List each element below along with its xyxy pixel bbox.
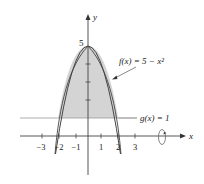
x-axis-arrow-icon (180, 134, 186, 139)
y-tick-label-5: 5 (79, 38, 84, 48)
tick-label: 3 (133, 142, 137, 152)
y-axis-label: y (92, 12, 97, 22)
tick-label: −3 (36, 142, 45, 152)
tick-label: 2 (116, 142, 120, 152)
tick-label: −2 (54, 142, 63, 152)
y-axis-arrow-icon (86, 14, 91, 20)
chart: x y −3 −2 −1 1 2 3 5 f(x) = 5 − x² g(x) … (0, 0, 204, 184)
f-leader-arrow-icon (112, 76, 118, 80)
f-label: f(x) = 5 − x² (119, 56, 164, 66)
rotation-icon (159, 130, 166, 145)
x-axis-label: x (188, 131, 193, 141)
tick-label: 1 (99, 142, 103, 152)
x-tick-labels: −3 −2 −1 1 2 3 (36, 142, 137, 152)
g-label: g(x) = 1 (140, 113, 170, 123)
tick-label: −1 (71, 142, 80, 152)
f-leader (115, 67, 136, 78)
